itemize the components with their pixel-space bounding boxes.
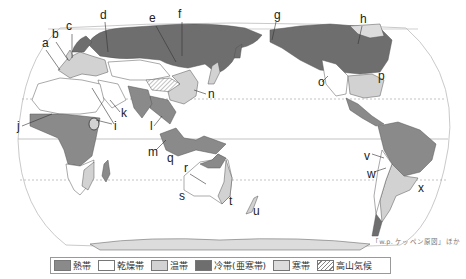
- legend-item-tropical: 熱帯: [54, 259, 91, 272]
- highland-hatch-swatch: [317, 260, 334, 271]
- label-e: e: [149, 11, 156, 25]
- label-w: w: [366, 167, 376, 181]
- legend-label: 乾燥帯: [117, 259, 144, 272]
- label-s: s: [179, 189, 185, 203]
- label-m: m: [148, 145, 158, 159]
- lake-victoria: [89, 118, 99, 130]
- label-r: r: [184, 161, 188, 175]
- legend-item-polar: 寒帯: [273, 259, 310, 272]
- label-h: h: [360, 12, 367, 26]
- arid-swatch: [98, 260, 115, 271]
- legend-label: 寒帯: [292, 259, 310, 272]
- legend-label: 熱帯: [73, 259, 91, 272]
- label-v: v: [364, 149, 370, 163]
- label-c: c: [66, 19, 72, 33]
- label-n: n: [208, 87, 215, 101]
- tropical-swatch: [54, 260, 71, 271]
- label-a: a: [42, 36, 49, 50]
- polar-swatch: [273, 260, 290, 271]
- legend-item-arid: 乾燥帯: [98, 259, 144, 272]
- continental-swatch: [195, 260, 212, 271]
- label-u: u: [253, 204, 260, 218]
- label-g: g: [274, 8, 281, 22]
- label-l: l: [150, 119, 153, 133]
- label-p: p: [378, 69, 385, 83]
- climate-legend: 熱帯 乾燥帯 温帯 冷帯(亜寒帯) 寒帯 高山気候: [50, 257, 391, 274]
- label-j: j: [16, 119, 20, 133]
- legend-label: 温帯: [170, 259, 188, 272]
- label-d: d: [100, 8, 107, 22]
- label-o: o: [318, 75, 325, 89]
- legend-item-highland: 高山気候: [317, 259, 372, 272]
- temperate-swatch: [151, 260, 168, 271]
- label-b: b: [52, 27, 59, 41]
- map-source-credit: 「w.p. ケッペン原図」ほか: [372, 236, 460, 246]
- legend-item-continental: 冷帯(亜寒帯): [195, 259, 266, 272]
- label-k: k: [121, 106, 128, 120]
- antarctica-polar-zone: [90, 239, 370, 250]
- africa-arid-zone: [32, 78, 104, 114]
- legend-item-temperate: 温帯: [151, 259, 188, 272]
- label-q: q: [167, 151, 174, 165]
- label-i: i: [114, 119, 117, 133]
- legend-label: 高山気候: [336, 259, 372, 272]
- label-x: x: [418, 181, 424, 195]
- label-f: f: [178, 7, 182, 21]
- legend-label: 冷帯(亜寒帯): [214, 259, 266, 272]
